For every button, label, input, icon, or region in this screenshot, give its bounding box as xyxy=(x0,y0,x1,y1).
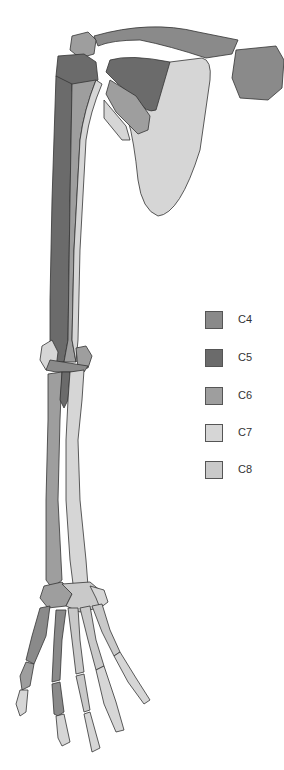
arm-skeleton-illustration xyxy=(0,0,284,770)
legend-item-c4: C4 xyxy=(205,311,284,331)
thumb-proximal-phalanx xyxy=(20,662,34,690)
legend-label: C5 xyxy=(238,351,252,363)
index-metacarpal xyxy=(52,610,66,682)
swatch-c4 xyxy=(205,311,223,329)
middle-distal-phalanx xyxy=(84,712,100,752)
little-phalanges xyxy=(114,652,150,704)
legend-label: C7 xyxy=(238,426,252,438)
index-middle-phalanx xyxy=(52,682,64,716)
swatch-c7 xyxy=(205,424,223,442)
middle-metacarpal xyxy=(68,608,84,674)
middle-proximal-phalanx xyxy=(76,674,90,712)
swatch-c6 xyxy=(205,387,223,405)
ring-phalanges xyxy=(96,666,124,732)
legend-item-c8: C8 xyxy=(205,461,284,481)
legend-item-c6: C6 xyxy=(205,387,284,407)
radius xyxy=(46,372,62,588)
legend-label: C8 xyxy=(238,463,252,475)
clavicle xyxy=(94,27,238,58)
index-distal-phalanx xyxy=(56,714,70,746)
swatch-c5 xyxy=(205,349,223,367)
swatch-c8 xyxy=(205,461,223,479)
legend-item-c7: C7 xyxy=(205,424,284,444)
thumb-metacarpal xyxy=(26,606,50,664)
sternum-piece xyxy=(232,46,284,100)
legend-item-c5: C5 xyxy=(205,349,284,369)
thumb-distal-phalanx xyxy=(16,690,28,716)
legend-label: C6 xyxy=(238,389,252,401)
ulna xyxy=(66,370,88,592)
legend-label: C4 xyxy=(238,313,252,325)
